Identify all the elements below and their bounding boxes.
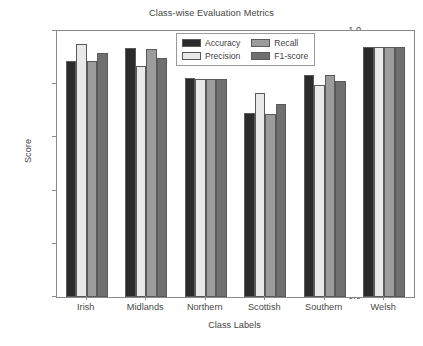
x-axis-label: Class Labels xyxy=(56,320,413,330)
bar[interactable] xyxy=(76,44,87,297)
bar-group xyxy=(66,31,108,297)
bar[interactable] xyxy=(363,47,374,297)
bar[interactable] xyxy=(325,75,336,297)
bar[interactable] xyxy=(395,47,406,297)
bar[interactable] xyxy=(314,85,325,297)
legend-swatch-icon xyxy=(182,39,201,47)
bar[interactable] xyxy=(304,75,315,297)
bar[interactable] xyxy=(66,61,77,297)
x-tick-label: Southern xyxy=(305,302,342,312)
bar[interactable] xyxy=(146,49,157,297)
y-axis-label: Score xyxy=(23,111,33,191)
legend-entry[interactable]: Accuracy xyxy=(182,38,240,48)
bar[interactable] xyxy=(87,61,98,297)
bar-group xyxy=(244,31,286,297)
legend-label: Precision xyxy=(205,51,240,61)
bar-group xyxy=(304,31,346,297)
bar[interactable] xyxy=(335,81,346,297)
chart-legend: AccuracyRecallPrecisionF1-score xyxy=(176,33,315,66)
legend-entry[interactable]: Precision xyxy=(182,51,240,61)
x-tick-label: Midlands xyxy=(127,302,164,312)
chart-figure: Class-wise Evaluation Metrics Score 0.00… xyxy=(0,0,423,346)
bar[interactable] xyxy=(374,47,385,297)
bar[interactable] xyxy=(185,78,196,297)
bar[interactable] xyxy=(255,93,266,297)
bar-group xyxy=(185,31,227,297)
chart-title: Class-wise Evaluation Metrics xyxy=(0,8,423,18)
bar[interactable] xyxy=(384,47,395,297)
plot-area xyxy=(56,30,415,298)
x-tick-label: Scottish xyxy=(248,302,281,312)
x-tick-label: Welsh xyxy=(371,302,396,312)
legend-entry[interactable]: F1-score xyxy=(251,51,308,61)
x-tick-mark xyxy=(205,296,206,300)
x-tick-mark xyxy=(324,296,325,300)
legend-label: Recall xyxy=(274,38,298,48)
bar-group xyxy=(363,31,405,297)
x-tick-mark xyxy=(264,296,265,300)
legend-swatch-icon xyxy=(182,52,201,60)
bar[interactable] xyxy=(265,114,276,297)
legend-swatch-icon xyxy=(251,52,270,60)
x-tick-mark xyxy=(383,296,384,300)
bar[interactable] xyxy=(206,79,217,297)
x-tick-label: Irish xyxy=(77,302,94,312)
x-tick-label: Northern xyxy=(187,302,223,312)
bar[interactable] xyxy=(216,79,227,297)
bar[interactable] xyxy=(157,58,168,297)
bar[interactable] xyxy=(136,66,147,297)
legend-entry[interactable]: Recall xyxy=(251,38,308,48)
bar[interactable] xyxy=(97,53,108,297)
bar-group xyxy=(125,31,167,297)
bars-layer xyxy=(57,31,414,297)
legend-label: F1-score xyxy=(274,51,308,61)
bar[interactable] xyxy=(195,79,206,297)
bar[interactable] xyxy=(276,104,287,297)
x-tick-mark xyxy=(86,296,87,300)
bar[interactable] xyxy=(244,113,255,297)
legend-label: Accuracy xyxy=(205,38,240,48)
bar[interactable] xyxy=(125,48,136,297)
x-tick-mark xyxy=(145,296,146,300)
legend-swatch-icon xyxy=(251,39,270,47)
